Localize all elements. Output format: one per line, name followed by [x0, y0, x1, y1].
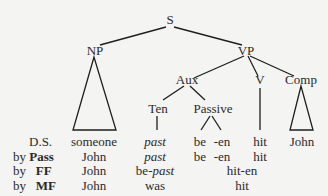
- ds-np: someone: [71, 135, 117, 148]
- edge-vp-aux: [194, 56, 244, 78]
- node-passive: Passive: [194, 102, 233, 115]
- node-comp: Comp: [285, 73, 317, 86]
- node-vp: VP: [238, 44, 255, 57]
- pass-tense: past: [144, 150, 166, 163]
- label-rule: FF: [36, 163, 52, 178]
- row-label-ff: by FF: [13, 164, 52, 177]
- edge-s-np: [100, 27, 166, 45]
- mf-tense: was: [145, 179, 165, 192]
- ff-verb-group: hit-en: [227, 164, 257, 177]
- node-v: V: [255, 73, 264, 86]
- ff-tense-italic: past: [152, 163, 174, 178]
- ds-be: be: [194, 135, 206, 148]
- edge-s-vp: [174, 27, 242, 45]
- mf-np: John: [82, 179, 107, 192]
- label-prefix: by: [13, 178, 26, 193]
- ds-tense: past: [144, 135, 166, 148]
- ff-tense: be-past: [136, 164, 174, 177]
- label-rule: Pass: [29, 149, 54, 164]
- mf-verb-group: hit: [235, 179, 249, 192]
- ds-en: -en: [214, 135, 231, 148]
- row-label-mf: by MF: [13, 179, 56, 192]
- edge-aux-ten: [163, 86, 184, 100]
- pass-be: be: [194, 150, 206, 163]
- node-ten: Ten: [148, 102, 167, 115]
- ff-tense-prefix: be-: [136, 163, 153, 178]
- label-prefix: by: [13, 149, 26, 164]
- pass-np: John: [82, 150, 107, 163]
- pass-en: -en: [214, 150, 231, 163]
- node-aux: Aux: [176, 73, 198, 86]
- label-prefix: by: [13, 163, 26, 178]
- pass-verb: hit: [253, 150, 267, 163]
- edge-aux-passive: [190, 86, 205, 100]
- ff-np: John: [82, 164, 107, 177]
- ds-comp: John: [290, 135, 315, 148]
- ds-verb: hit: [253, 135, 267, 148]
- node-s: S: [166, 13, 173, 26]
- comp-triangle: [290, 86, 313, 130]
- np-triangle: [73, 57, 116, 130]
- syntax-tree-diagram: S NP VP Aux V Comp Ten Passive D.S. some…: [0, 0, 328, 196]
- edge-passive-be: [201, 116, 210, 130]
- label-rule: MF: [36, 178, 56, 193]
- edge-passive-en: [212, 116, 221, 130]
- row-label-ds: D.S.: [29, 135, 52, 148]
- row-label-pass: by Pass: [13, 150, 54, 163]
- node-np: NP: [87, 44, 104, 57]
